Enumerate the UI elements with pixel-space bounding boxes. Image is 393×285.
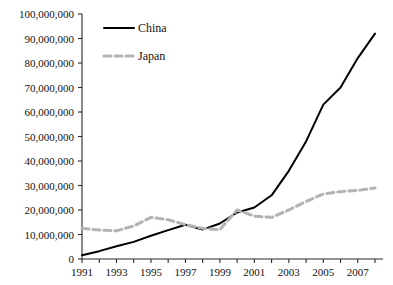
x-tick-label: 1993 bbox=[105, 266, 128, 278]
x-tick-label: 1995 bbox=[140, 266, 163, 278]
y-tick-label: 40,000,000 bbox=[25, 155, 75, 167]
line-chart: 010,000,00020,000,00030,000,00040,000,00… bbox=[0, 0, 393, 285]
x-axis-tick-labels: 199119931995199719992001200320052007 bbox=[71, 266, 369, 278]
y-tick-label: 100,000,000 bbox=[19, 8, 75, 20]
x-tick-label: 2007 bbox=[347, 266, 370, 278]
series-line-japan bbox=[82, 188, 375, 231]
x-tick-label: 1997 bbox=[174, 266, 197, 278]
y-axis-tick-marks bbox=[78, 14, 82, 259]
y-tick-label: 20,000,000 bbox=[25, 204, 75, 216]
x-tick-label: 2005 bbox=[312, 266, 335, 278]
series-lines bbox=[82, 34, 375, 256]
x-tick-label: 1991 bbox=[71, 266, 93, 278]
y-tick-label: 90,000,000 bbox=[25, 33, 75, 45]
x-tick-label: 2003 bbox=[278, 266, 301, 278]
y-tick-label: 0 bbox=[69, 253, 75, 265]
y-tick-label: 70,000,000 bbox=[25, 82, 75, 94]
y-tick-label: 10,000,000 bbox=[25, 229, 75, 241]
y-tick-label: 80,000,000 bbox=[25, 57, 75, 69]
chart-canvas: 010,000,00020,000,00030,000,00040,000,00… bbox=[0, 0, 393, 285]
y-tick-label: 60,000,000 bbox=[25, 106, 75, 118]
x-axis-tick-marks bbox=[82, 259, 375, 263]
x-tick-label: 2001 bbox=[243, 266, 265, 278]
y-tick-label: 50,000,000 bbox=[25, 131, 75, 143]
y-axis-tick-labels: 010,000,00020,000,00030,000,00040,000,00… bbox=[19, 8, 75, 265]
y-tick-label: 30,000,000 bbox=[25, 180, 75, 192]
legend-label-japan: Japan bbox=[138, 49, 165, 63]
legend-label-china: China bbox=[138, 21, 167, 35]
series-line-china bbox=[82, 34, 375, 256]
chart-legend: ChinaJapan bbox=[104, 21, 167, 63]
x-tick-label: 1999 bbox=[209, 266, 232, 278]
